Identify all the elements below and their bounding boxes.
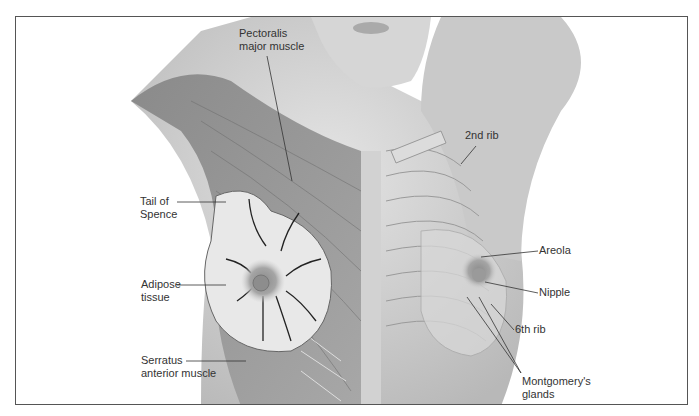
label-adipose-tissue: Adipose tissue [141, 278, 181, 304]
label-montgomery-glands: Montgomery's glands [522, 375, 591, 401]
label-nipple: Nipple [539, 286, 570, 299]
lips [353, 22, 389, 34]
label-serratus: Serratus anterior muscle [141, 354, 216, 380]
breast-anatomy-illustration [16, 17, 688, 405]
label-tail-of-spence: Tail of Spence [140, 195, 177, 221]
label-areola: Areola [539, 244, 571, 257]
label-pectoralis: Pectoralis major muscle [239, 27, 304, 53]
anatomy-figure-frame [15, 16, 688, 405]
label-2nd-rib: 2nd rib [465, 129, 499, 142]
label-6th-rib: 6th rib [515, 323, 546, 336]
